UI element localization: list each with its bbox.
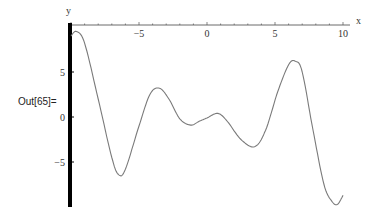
plot: −50510 x 50−5 y: [0, 0, 377, 219]
y-tick-label: −5: [54, 157, 65, 168]
x-tick-label: −5: [134, 28, 145, 39]
x-axis: −50510 x: [70, 15, 361, 39]
x-tick-label: 5: [273, 28, 278, 39]
y-axis-label: y: [66, 5, 71, 16]
x-tick-label: 10: [338, 28, 348, 39]
x-axis-label: x: [356, 15, 361, 26]
y-tick-label: 5: [60, 67, 65, 78]
data-line: [71, 31, 343, 205]
x-tick-label: 0: [205, 28, 210, 39]
y-tick-label: 0: [60, 112, 65, 123]
